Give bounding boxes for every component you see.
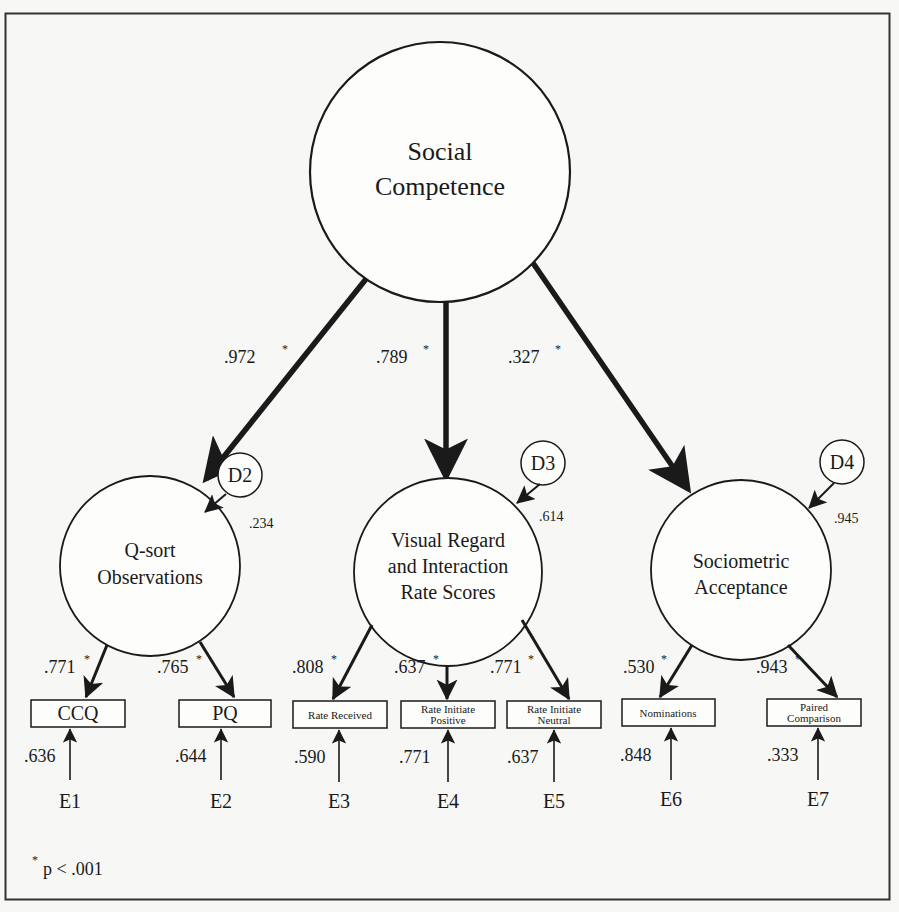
sig-paired: * <box>795 652 801 666</box>
d2-label: D2 <box>228 464 252 486</box>
loading-pq: .765 <box>157 657 189 677</box>
sig-nominations: * <box>661 652 667 666</box>
loading-paired: .943 <box>756 657 788 677</box>
footnote-symbol: * <box>32 853 38 867</box>
sociometric-label-1: Sociometric <box>693 550 790 572</box>
error-e2: E2 <box>210 790 232 812</box>
error-e1: E1 <box>59 790 81 812</box>
sig-visual: * <box>423 342 429 356</box>
error-value-e4: .771 <box>399 747 431 767</box>
error-e7: E7 <box>807 788 829 810</box>
d4-value: .945 <box>834 511 859 526</box>
indicator-paired-comparison: Paired Comparison <box>767 699 861 726</box>
d2-value: .234 <box>249 516 274 531</box>
error-labels: E1 E2 E3 E4 E5 E6 E7 <box>59 788 829 812</box>
error-e5: E5 <box>543 790 565 812</box>
visual-label-1: Visual Regard <box>391 529 505 552</box>
sociometric-label-2: Acceptance <box>694 576 787 599</box>
error-value-e5: .637 <box>507 747 539 767</box>
sig-pq: * <box>196 652 202 666</box>
error-e3: E3 <box>328 790 350 812</box>
node-qsort-observations: Q-sort Observations <box>60 476 240 656</box>
sig-received: * <box>331 652 337 666</box>
indicator-pq: PQ <box>179 700 271 727</box>
loading-visual: .789 <box>376 347 408 367</box>
sig-ccq: * <box>84 652 90 666</box>
error-value-e6: .848 <box>620 745 652 765</box>
path-qsort-pq <box>200 642 234 697</box>
footnote: * p < .001 <box>32 853 103 879</box>
node-visual-regard: Visual Regard and Interaction Rate Score… <box>354 478 542 666</box>
footnote-text: p < .001 <box>43 859 103 879</box>
disturbance-d4: D4 <box>809 440 864 508</box>
d4-label: D4 <box>830 451 854 473</box>
sig-qsort: * <box>282 342 288 356</box>
visual-label-2: and Interaction <box>388 555 509 577</box>
visual-label-3: Rate Scores <box>401 581 496 603</box>
qsort-label-1: Q-sort <box>124 539 176 561</box>
indicator-rate-initiate-positive: Rate Initiate Positive <box>401 701 495 728</box>
rate-received-label: Rate Received <box>308 709 372 721</box>
loading-sociometric: .327 <box>508 347 540 367</box>
error-value-e3: .590 <box>294 747 326 767</box>
paired-label-2: Comparison <box>787 712 841 724</box>
indicator-ccq: CCQ <box>31 700 125 727</box>
error-e6: E6 <box>660 788 682 810</box>
error-e4: E4 <box>437 790 459 812</box>
loading-qsort: .972 <box>224 347 256 367</box>
loading-positive: .637 <box>394 657 426 677</box>
social-competence-label-2: Competence <box>375 172 505 201</box>
node-sociometric-acceptance: Sociometric Acceptance <box>651 480 831 660</box>
sig-sociometric: * <box>555 342 561 356</box>
loading-nominations: .530 <box>623 657 655 677</box>
path-visual-received <box>333 625 372 699</box>
rate-positive-label-2: Positive <box>430 714 466 726</box>
pq-label: PQ <box>212 702 238 724</box>
ccq-label: CCQ <box>57 702 99 724</box>
indicator-rate-initiate-neutral: Rate Initiate Neutral <box>507 701 601 728</box>
rate-neutral-label-2: Neutral <box>538 714 571 726</box>
node-social-competence: Social Competence <box>310 42 570 302</box>
loading-ccq: .771 <box>44 657 76 677</box>
indicator-rate-received: Rate Received <box>293 701 387 728</box>
sem-diagram: Social Competence .972 * .789 * .327 * Q… <box>0 0 899 912</box>
error-value-e2: .644 <box>175 746 207 766</box>
sig-positive: * <box>433 652 439 666</box>
error-values: .636 .644 .590 .771 .637 .848 .333 <box>24 745 799 767</box>
d3-label: D3 <box>531 452 555 474</box>
d3-value: .614 <box>539 509 564 524</box>
nominations-label: Nominations <box>640 707 697 719</box>
loading-neutral: .771 <box>490 657 522 677</box>
path-sc-to-qsort <box>206 279 366 479</box>
qsort-label-2: Observations <box>97 566 203 588</box>
error-value-e1: .636 <box>24 746 56 766</box>
disturbance-d3: D3 <box>517 441 565 503</box>
error-value-e7: .333 <box>767 745 799 765</box>
social-competence-label-1: Social <box>408 137 473 166</box>
sig-neutral: * <box>528 652 534 666</box>
loading-received: .808 <box>292 657 324 677</box>
indicator-nominations: Nominations <box>622 699 715 726</box>
